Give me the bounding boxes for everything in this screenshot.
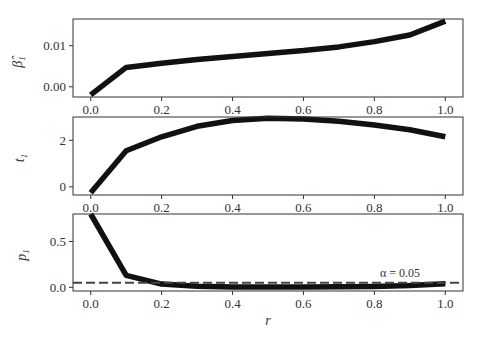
x-tick-label: 0.8 [366, 200, 382, 215]
alpha-annotation: α = 0.05 [380, 266, 420, 280]
y-tick-label: 0 [60, 179, 67, 194]
x-tick-label: 0.6 [295, 200, 312, 215]
axes-frame [73, 19, 463, 97]
y-axis-label-p: p1 [14, 249, 31, 262]
y-tick-label: 0.01 [43, 38, 66, 53]
x-tick-label: 0.2 [154, 296, 170, 311]
x-tick-label: 0.0 [83, 102, 99, 117]
series-line-t_1 [91, 118, 446, 193]
x-tick-label: 1.0 [437, 102, 453, 117]
x-tick-label: 0.4 [224, 200, 241, 215]
y-tick-label: 2 [60, 133, 67, 148]
x-tick-label: 0.4 [224, 296, 241, 311]
y-axis-label-beta: β̂1 [10, 55, 27, 69]
series-line-beta_hat_1 [91, 21, 446, 95]
x-tick-label: 0.0 [83, 296, 99, 311]
x-axis-label: r [265, 313, 271, 328]
x-tick-label: 1.0 [437, 200, 453, 215]
x-tick-label: 0.8 [366, 102, 382, 117]
x-tick-label: 0.0 [83, 200, 99, 215]
panel-p-value: 0.00.20.40.60.81.00.00.5 [50, 214, 463, 311]
x-tick-label: 0.6 [295, 296, 312, 311]
x-tick-label: 0.2 [154, 102, 170, 117]
y-tick-label: 0.00 [43, 79, 66, 94]
x-tick-label: 0.8 [366, 296, 382, 311]
panel-t-statistic: 0.00.20.40.60.81.002 [60, 117, 464, 215]
y-tick-label: 0.5 [50, 234, 66, 249]
x-tick-label: 1.0 [437, 296, 453, 311]
figure: 0.00.20.40.60.81.00.000.01 0.00.20.40.60… [0, 0, 480, 345]
x-tick-label: 0.2 [154, 200, 170, 215]
x-tick-label: 0.4 [224, 102, 241, 117]
y-axis-label-t: t1 [12, 154, 29, 162]
y-tick-label: 0.0 [50, 280, 66, 295]
panel-beta-hat: 0.00.20.40.60.81.00.000.01 [43, 19, 463, 117]
x-tick-label: 0.6 [295, 102, 312, 117]
